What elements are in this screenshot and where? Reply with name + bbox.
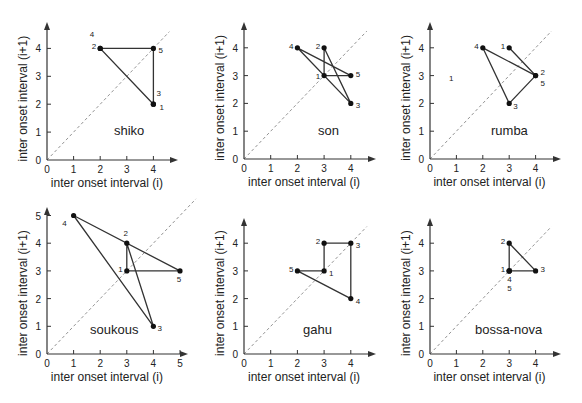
y-axis-arrow-icon — [241, 22, 247, 30]
x-tick-label: 3 — [506, 358, 512, 369]
y-tick-label: 4 — [232, 43, 238, 54]
x-tick-label: 0 — [427, 163, 433, 174]
point-label: 4 — [474, 42, 479, 51]
data-point — [295, 268, 300, 273]
x-tick-label: 1 — [454, 163, 460, 174]
data-point — [507, 101, 512, 106]
x-tick-label: 1 — [71, 358, 77, 369]
data-point — [348, 73, 353, 78]
y-tick-label: 3 — [232, 71, 238, 82]
y-tick-label: 4 — [418, 43, 424, 54]
point-label: 2 — [501, 237, 506, 246]
data-point — [348, 101, 353, 106]
data-point — [533, 268, 538, 273]
y-tick-label: 2 — [35, 99, 41, 110]
panel-rumba: 0123401234inter onset interval (i)inter … — [399, 22, 561, 189]
data-point — [322, 268, 327, 273]
x-axis-title: inter onset interval (i) — [51, 370, 163, 384]
rhythm-path — [509, 243, 535, 271]
panel-soukous: 012345012345inter onset interval (i)inte… — [16, 199, 196, 384]
x-axis-arrow-icon — [170, 157, 178, 163]
y-tick-label: 2 — [418, 294, 424, 305]
y-axis-title: inter onset interval (i+1) — [213, 230, 227, 356]
x-tick-label: 5 — [177, 358, 183, 369]
point-label: 4 — [62, 219, 67, 228]
y-tick-label: 0 — [232, 154, 238, 165]
x-axis-title: inter onset interval (i) — [248, 370, 360, 384]
point-label: 1 — [316, 72, 321, 81]
data-point — [124, 241, 129, 246]
data-point — [348, 296, 353, 301]
point-label: 1 — [329, 269, 334, 278]
x-tick-label: 3 — [124, 164, 130, 175]
x-tick-label: 3 — [506, 163, 512, 174]
data-point — [533, 73, 538, 78]
point-label: 3 — [156, 89, 161, 98]
y-axis-title: inter onset interval (i+1) — [16, 36, 30, 162]
y-tick-label: 0 — [418, 154, 424, 165]
x-tick-label: 0 — [241, 163, 247, 174]
y-axis-title: inter onset interval (i+1) — [16, 230, 30, 356]
x-tick-label: 4 — [348, 358, 354, 369]
y-tick-label: 5 — [35, 211, 41, 222]
x-axis-arrow-icon — [368, 351, 376, 357]
x-axis-title: inter onset interval (i) — [433, 175, 545, 189]
genre-label: gahu — [303, 322, 332, 337]
point-label: 2 — [124, 229, 129, 238]
panel-shiko: 0123401234inter onset interval (i)inter … — [16, 22, 178, 190]
y-tick-label: 0 — [35, 155, 41, 166]
data-point — [295, 45, 300, 50]
data-point — [151, 324, 156, 329]
data-point — [480, 45, 485, 50]
x-tick-label: 2 — [295, 163, 301, 174]
x-tick-label: 4 — [151, 358, 157, 369]
x-tick-label: 0 — [44, 164, 50, 175]
ioi-figure: 0123401234inter onset interval (i)inter … — [0, 0, 582, 403]
y-tick-label: 0 — [35, 349, 41, 360]
y-tick-label: 1 — [232, 321, 238, 332]
y-tick-label: 1 — [35, 127, 41, 138]
x-tick-label: 0 — [427, 358, 433, 369]
x-axis-arrow-icon — [553, 351, 561, 357]
x-tick-label: 2 — [480, 163, 486, 174]
point-label: 1 — [501, 265, 506, 274]
y-tick-label: 1 — [35, 321, 41, 332]
x-tick-label: 1 — [454, 358, 460, 369]
x-axis-title: inter onset interval (i) — [433, 370, 545, 384]
point-label: 1 — [118, 265, 123, 274]
annotation-label: 1 — [449, 74, 454, 83]
y-tick-label: 2 — [35, 294, 41, 305]
x-tick-label: 1 — [71, 164, 77, 175]
x-axis-arrow-icon — [368, 156, 376, 162]
genre-label: bossa-nova — [475, 322, 543, 337]
point-label: 4 — [289, 42, 294, 51]
y-tick-label: 2 — [232, 98, 238, 109]
y-axis-title: inter onset interval (i+1) — [213, 35, 227, 161]
panel-son: 0123401234inter onset interval (i)inter … — [213, 22, 376, 189]
y-axis-title: inter onset interval (i+1) — [399, 35, 413, 161]
data-point — [98, 46, 103, 51]
genre-label: rumba — [491, 123, 529, 138]
panel-gahu: 0123401234inter onset interval (i)inter … — [213, 218, 376, 384]
diagonal-reference-line — [244, 31, 367, 159]
y-tick-label: 1 — [418, 321, 424, 332]
point-label: 5 — [356, 70, 361, 79]
x-tick-label: 4 — [151, 164, 157, 175]
point-label: 2 — [316, 42, 321, 51]
x-axis-arrow-icon — [553, 156, 561, 162]
x-axis-arrow-icon — [180, 351, 188, 357]
x-tick-label: 3 — [321, 358, 327, 369]
point-label: 4 — [507, 275, 512, 284]
y-axis-arrow-icon — [44, 207, 50, 215]
y-axis-arrow-icon — [241, 218, 247, 226]
x-tick-label: 4 — [533, 358, 539, 369]
point-label: 5 — [507, 284, 512, 293]
x-tick-label: 4 — [533, 163, 539, 174]
y-tick-label: 0 — [418, 349, 424, 360]
y-tick-label: 4 — [232, 238, 238, 249]
x-tick-label: 2 — [97, 358, 103, 369]
x-tick-label: 1 — [268, 358, 274, 369]
y-tick-label: 2 — [418, 98, 424, 109]
x-axis-title: inter onset interval (i) — [248, 175, 360, 189]
point-label: 2 — [316, 237, 321, 246]
